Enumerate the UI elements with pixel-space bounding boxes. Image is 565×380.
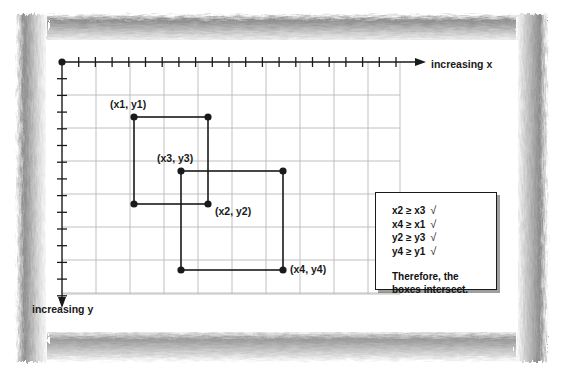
- checkmark-icon: √: [430, 204, 436, 218]
- point-label-x1y1: (x1, y1): [110, 98, 146, 110]
- corner-dot: [204, 200, 211, 207]
- checkmark-icon: √: [430, 245, 436, 259]
- conditions-list: x2 ≥ x3√ x4 ≥ x1√ y2 ≥ y3√ y4 ≥ y1√ Ther…: [376, 193, 496, 296]
- conclusion-text: Therefore, the boxes intersect.: [392, 271, 496, 296]
- point-label-x4y4: (x4, y4): [290, 263, 326, 275]
- point-label-x2y2: (x2, y2): [215, 205, 251, 217]
- corner-dot: [279, 266, 286, 273]
- x-axis-arrowhead: [415, 58, 426, 66]
- checkmark-icon: √: [430, 218, 436, 232]
- y-axis-label: increasing y: [32, 303, 93, 315]
- condition-row: y2 ≥ y3√: [392, 231, 496, 245]
- figure-page: increasing x increasing y (x1, y1) (x3, …: [0, 0, 565, 380]
- corner-dot: [130, 200, 137, 207]
- conditions-note-box: x2 ≥ x3√ x4 ≥ x1√ y2 ≥ y3√ y4 ≥ y1√ Ther…: [375, 192, 497, 290]
- condition-row: y4 ≥ y1√: [392, 245, 496, 259]
- condition-row: x4 ≥ x1√: [392, 218, 496, 232]
- condition-text: y2 ≥ y3: [392, 232, 425, 243]
- point-label-x3y3: (x3, y3): [157, 152, 193, 164]
- corner-dot: [130, 113, 137, 120]
- checkmark-icon: √: [430, 231, 436, 245]
- coordinate-diagram: [0, 0, 565, 380]
- corner-dot: [204, 113, 211, 120]
- bounding-boxes: [134, 117, 283, 270]
- conclusion-line-2: boxes intersect.: [392, 284, 496, 297]
- corner-dot: [279, 167, 286, 174]
- condition-text: x4 ≥ x1: [392, 219, 425, 230]
- corner-dot: [177, 266, 184, 273]
- conclusion-line-1: Therefore, the: [392, 271, 496, 284]
- x-axis-label: increasing x: [431, 58, 492, 70]
- grid: [62, 62, 400, 294]
- corner-dot: [177, 167, 184, 174]
- condition-row: x2 ≥ x3√: [392, 204, 496, 218]
- condition-text: y4 ≥ y1: [392, 246, 425, 257]
- condition-text: x2 ≥ x3: [392, 205, 425, 216]
- origin-point: [58, 58, 65, 65]
